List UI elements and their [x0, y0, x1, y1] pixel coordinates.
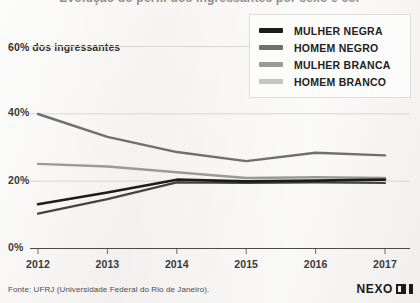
y-axis-tick-label: 40% [8, 106, 29, 118]
y-axis-tick-label: 20% [8, 174, 29, 186]
series-line [38, 182, 385, 213]
nexo-mark-icon [396, 284, 406, 294]
x-axis-tick-label: 2016 [296, 258, 336, 270]
x-axis-tick-label: 2012 [18, 258, 58, 270]
legend-item-label: MULHER NEGRA [294, 25, 383, 37]
legend-item-label: MULHER BRANCA [294, 59, 391, 71]
nexo-bar-icon [409, 284, 413, 294]
series-line [38, 114, 385, 161]
legend-swatch-icon [259, 28, 283, 33]
x-axis-tick-label: 2014 [157, 258, 197, 270]
legend-item[interactable]: MULHER NEGRA [259, 22, 402, 39]
x-axis-tick-label: 2013 [87, 258, 127, 270]
legend-swatch-icon [259, 62, 283, 67]
legend-item[interactable]: HOMEM NEGRO [259, 39, 402, 56]
series-line [38, 164, 385, 178]
x-axis-tick-label: 2015 [226, 258, 266, 270]
source-note: Fonte: UFRJ (Universidade Federal do Rio… [8, 285, 209, 294]
legend-item[interactable]: MULHER BRANCA [259, 56, 402, 73]
legend-swatch-icon [259, 45, 283, 50]
legend-item-label: HOMEM NEGRO [294, 42, 378, 54]
data-series-group [38, 114, 385, 214]
chart-legend: MULHER NEGRAHOMEM NEGROMULHER BRANCAHOME… [249, 14, 411, 98]
x-axis-tick-label: 2017 [365, 258, 405, 270]
legend-item[interactable]: HOMEM BRANCO [259, 73, 402, 90]
nexo-wordmark: NEXO [357, 282, 393, 296]
legend-swatch-icon [259, 79, 283, 84]
legend-item-label: HOMEM BRANCO [294, 76, 386, 88]
nexo-logo: NEXO [357, 282, 413, 296]
y-axis-tick-label: 0% [8, 241, 23, 253]
